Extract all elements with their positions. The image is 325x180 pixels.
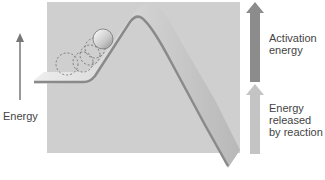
activation-energy-label: Activation energy [269,32,317,56]
energy-diagram [0,0,325,180]
activation-label-line: energy [269,44,317,56]
ball-icon [93,29,113,49]
released-label-line: by reaction [269,126,323,138]
energy-released-arrow [246,84,264,154]
activation-energy-arrow [246,2,264,82]
energy-axis-arrow [16,33,24,100]
energy-axis-label: Energy [3,110,38,122]
released-label-line: Energy [269,102,323,114]
energy-released-label: Energy released by reaction [269,102,323,138]
released-label-line: released [269,114,323,126]
reaction-track [34,2,240,168]
activation-label-line: Activation [269,32,317,44]
